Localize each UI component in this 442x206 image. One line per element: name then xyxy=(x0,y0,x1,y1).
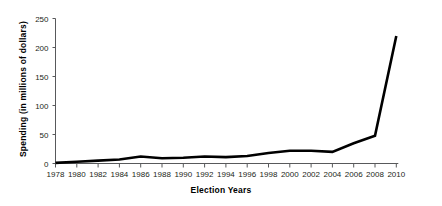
x-tick-label: 1984 xyxy=(111,170,129,179)
x-tick-label: 2002 xyxy=(302,170,320,179)
y-tick-label: 50 xyxy=(40,131,49,140)
x-tick-label: 2004 xyxy=(324,170,342,179)
x-axis-title: Election Years xyxy=(0,185,442,195)
x-tick-label: 1994 xyxy=(217,170,235,179)
y-tick-label: 150 xyxy=(35,73,49,82)
chart-plot-area: 050100150200250 197819801982198419861988… xyxy=(0,0,442,206)
y-tick-label: 0 xyxy=(44,160,49,169)
x-tick-label: 2006 xyxy=(345,170,363,179)
x-tick-label: 1982 xyxy=(89,170,107,179)
x-tick-label-group: 1978198019821984198619881990199219941996… xyxy=(47,170,406,179)
x-tick-label: 1988 xyxy=(153,170,171,179)
x-tick-label: 1992 xyxy=(196,170,214,179)
spending-data-line xyxy=(56,36,397,163)
x-tick-label: 1990 xyxy=(174,170,192,179)
x-tick-label: 1998 xyxy=(260,170,278,179)
x-tick-label: 2000 xyxy=(281,170,299,179)
x-tick-label: 2008 xyxy=(366,170,384,179)
x-tick-label: 1980 xyxy=(68,170,86,179)
y-tick-label: 200 xyxy=(35,44,49,53)
chart-container: Spending (in millions of dollars) 050100… xyxy=(0,0,442,206)
x-tick-label: 2010 xyxy=(387,170,405,179)
y-tick-label-group: 050100150200250 xyxy=(35,15,49,169)
x-tick-label: 1996 xyxy=(238,170,256,179)
y-tick-label: 250 xyxy=(35,15,49,24)
y-tick-label: 100 xyxy=(35,102,49,111)
x-tick-mark-group xyxy=(56,164,397,168)
x-tick-label: 1986 xyxy=(132,170,150,179)
x-tick-label: 1978 xyxy=(47,170,65,179)
